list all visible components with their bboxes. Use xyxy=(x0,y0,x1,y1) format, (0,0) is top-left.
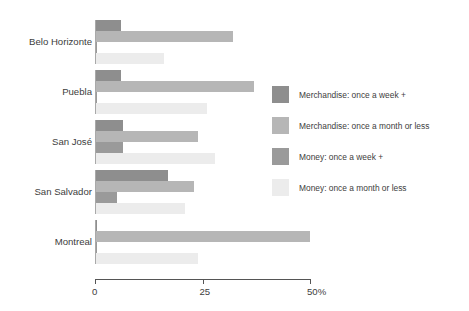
category-label-belo-horizonte: Belo Horizonte xyxy=(0,36,92,47)
category-tick xyxy=(95,170,96,214)
bar xyxy=(95,192,117,203)
legend-swatch-icon xyxy=(272,117,289,134)
legend-swatch-icon xyxy=(272,179,289,196)
x-axis-tick xyxy=(203,279,204,284)
x-axis-tick xyxy=(95,279,96,284)
legend-label: Merchandise: once a month or less xyxy=(299,121,429,131)
x-axis-tick-label: 25 xyxy=(200,286,211,297)
bar xyxy=(95,131,198,142)
bar xyxy=(95,120,123,131)
category-tick xyxy=(95,120,96,164)
category-label-san-jos-: San José xyxy=(0,136,92,147)
bar-chart: Belo HorizontePueblaSan JoséSan Salvador… xyxy=(0,0,469,311)
bar xyxy=(95,153,215,164)
bar xyxy=(95,253,198,264)
category-label-montreal: Montreal xyxy=(0,236,92,247)
legend-label: Money: once a week + xyxy=(299,152,383,162)
bar xyxy=(95,20,121,31)
bar xyxy=(95,103,207,114)
bar xyxy=(95,81,254,92)
category-tick xyxy=(95,20,96,64)
bar-group xyxy=(95,20,310,64)
category-tick xyxy=(95,70,96,114)
legend-label: Merchandise: once a week + xyxy=(299,90,406,100)
bar xyxy=(95,142,123,153)
bar-group xyxy=(95,220,310,264)
x-axis-tick-label: 50% xyxy=(307,286,326,297)
legend-swatch-icon xyxy=(272,86,289,103)
x-axis-tick xyxy=(310,279,311,284)
plot-area xyxy=(95,14,310,272)
bar xyxy=(95,203,185,214)
bar xyxy=(95,170,168,181)
category-axis: Belo HorizontePueblaSan JoséSan Salvador… xyxy=(0,14,92,272)
category-label-puebla: Puebla xyxy=(0,86,92,97)
bar xyxy=(95,31,233,42)
bar xyxy=(95,53,164,64)
legend-label: Money: once a month or less xyxy=(299,183,407,193)
bar xyxy=(95,70,121,81)
bar xyxy=(95,181,194,192)
bar xyxy=(95,231,310,242)
legend-swatch-icon xyxy=(272,148,289,165)
x-axis-tick-label: 0 xyxy=(92,286,97,297)
category-label-san-salvador: San Salvador xyxy=(0,186,92,197)
category-tick xyxy=(95,220,96,264)
